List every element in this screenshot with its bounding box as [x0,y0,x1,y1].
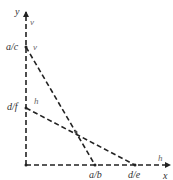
v-label-axis: v [30,18,34,27]
x-tick-ab: a/b [89,170,102,180]
y-tick-df: d/f [7,102,18,112]
intersection-point [75,131,78,134]
x-axis-label: x [163,171,167,180]
nullcline-diagram: y x a/c d/f a/b d/e v v h h [0,0,173,180]
ac-point [25,46,28,49]
h-label-axis: h [158,154,163,163]
y-tick-ac: a/c [6,42,18,52]
x-tick-de: d/e [128,170,140,180]
v-label-intercept: v [33,43,37,52]
de-point [134,164,137,167]
df-point [25,107,28,110]
h-nullcline [26,108,135,165]
diagram-canvas [0,0,173,180]
origin-point [25,164,28,167]
ab-point [94,164,97,167]
h-label-intercept: h [34,97,39,106]
y-axis-label: y [15,7,19,17]
v-nullcline [26,47,95,165]
